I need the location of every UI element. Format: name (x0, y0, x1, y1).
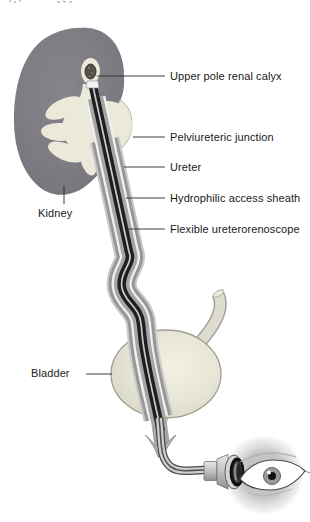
label-pelviureteric-junction: Pelviureteric junction (170, 131, 274, 143)
label-bladder: Bladder (31, 367, 70, 379)
label-flexible-ureterorenoscope: Flexible ureterorenoscope (170, 223, 300, 235)
label-hydrophilic-access-sheath: Hydrophilic access sheath (170, 192, 300, 204)
label-kidney: Kidney (38, 207, 72, 219)
scope-tip (86, 81, 99, 88)
figure-canvas: Upper pole renal calyx Pelviureteric jun… (0, 0, 310, 522)
eyepiece (204, 455, 245, 490)
label-upper-pole-renal-calyx: Upper pole renal calyx (170, 70, 282, 82)
label-ureter: Ureter (170, 161, 201, 173)
page-crop-text-remnant (9, 1, 72, 2)
contralateral-ureter (197, 288, 225, 346)
kidney-stone-icon (85, 64, 96, 79)
